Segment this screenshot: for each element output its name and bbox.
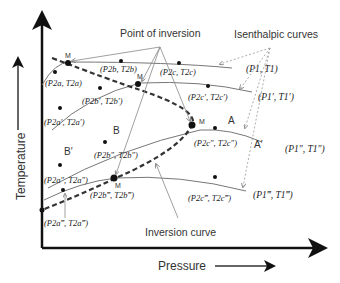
svg-text:(P2a, T2a): (P2a, T2a) [45, 78, 82, 88]
isenthalpic-curves-label: Isenthalpic curves [234, 28, 318, 40]
svg-text:(P2b″, T2b″): (P2b″, T2b″) [94, 150, 138, 160]
m-label-1: M [65, 52, 71, 59]
m-label-2: M [137, 73, 143, 80]
inversion-point-2 [135, 81, 141, 87]
region-a-label: A [228, 115, 235, 126]
region-a-prime-label: A′ [254, 139, 263, 150]
y-axis-label: Temperature [14, 132, 28, 200]
inversion-point-4 [111, 175, 118, 182]
initial-state-3: (P1″, T1″) [285, 144, 325, 155]
svg-text:(P2b′, T2b′): (P2b′, T2b′) [82, 96, 123, 106]
initial-state-1: (P1, T1) [246, 64, 278, 75]
inversion-point-5 [40, 208, 45, 213]
m-label-3: M [199, 118, 205, 125]
region-b-label: B [113, 125, 120, 136]
svg-text:(P2c″, T2c″): (P2c″, T2c″) [194, 138, 237, 148]
initial-state-4: (P1‴, T1‴) [253, 190, 293, 201]
m-label-4: M [115, 182, 121, 189]
svg-text:(P2b, T2b): (P2b, T2b) [100, 64, 137, 74]
svg-text:(P2c′, T2c′): (P2c′, T2c′) [188, 92, 228, 102]
inversion-curve-label: Inversion curve [145, 226, 216, 238]
inversion-point-3 [189, 122, 196, 129]
svg-text:(P2b‴, T2b‴): (P2b‴, T2b‴) [90, 190, 134, 200]
svg-text:(P2a′, T2a′): (P2a′, T2a′) [44, 117, 85, 127]
svg-text:(P2c, T2c): (P2c, T2c) [160, 67, 196, 77]
svg-text:(P2a‴, T2a‴): (P2a‴, T2a‴) [44, 218, 88, 228]
point-of-inversion-label: Point of inversion [120, 27, 201, 39]
svg-text:(P2c‴, T2c‴): (P2c‴, T2c‴) [188, 193, 231, 203]
region-b-prime-label: B′ [64, 146, 73, 157]
svg-text:(P2a″, T2a″): (P2a″, T2a″) [44, 175, 88, 185]
final-state-labels: (P2a, T2a) (P2b, T2b) (P2c, T2c) (P2a′, … [44, 64, 237, 228]
inversion-point-1 [65, 60, 71, 66]
inversion-curve-pointer [156, 164, 178, 218]
x-axis-label: Pressure [158, 259, 206, 273]
joule-thomson-diagram: Temperature Pressure M M M M [0, 0, 340, 283]
initial-state-2: (P1′, T1′) [258, 92, 294, 103]
